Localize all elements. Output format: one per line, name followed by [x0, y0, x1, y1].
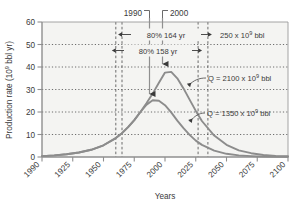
- series-label-2100-tail: bbl: [259, 74, 272, 83]
- series-label-2100-main: Q = 2100 x 10: [208, 74, 256, 83]
- callout-1990-label: 1990: [124, 9, 143, 18]
- span-164yr: 80% 164 yr: [122, 29, 208, 41]
- y-axis-title-tail: bbl yr): [5, 41, 14, 66]
- y-axis-title-main: Production rate (10: [5, 69, 14, 139]
- span-158yr: 80% 158 yr: [116, 45, 198, 57]
- series-label-1350-main: Q = 1350 x 10: [207, 109, 255, 118]
- production-rate-chart: 0 10 20 30 40 50 60 Production rate (109…: [0, 0, 305, 206]
- y-tick-40: 40: [26, 63, 36, 72]
- svg-text:Q = 1350 x 109 bbl: Q = 1350 x 109 bbl: [207, 108, 271, 118]
- series-label-1350-tail: bbl: [258, 109, 271, 118]
- y-tick-30: 30: [26, 86, 36, 95]
- x-axis-title: Years: [155, 192, 176, 201]
- callout-2000-label: 2000: [170, 9, 189, 18]
- y-axis-title: Production rate (109 bbl yr): [4, 41, 14, 139]
- chart-figure: 0 10 20 30 40 50 60 Production rate (109…: [0, 0, 305, 206]
- span-164yr-label: 80% 164 yr: [147, 31, 186, 40]
- y-tick-10: 10: [26, 131, 36, 140]
- svg-text:Production rate (109 bbl yr): Production rate (109 bbl yr): [4, 41, 14, 139]
- svg-text:Q = 2100 x 109 bbl: Q = 2100 x 109 bbl: [208, 73, 272, 83]
- y-tick-20: 20: [26, 108, 36, 117]
- y-tick-50: 50: [26, 41, 36, 50]
- reserve-note-main: 250 x 10: [220, 31, 249, 40]
- y-tick-60: 60: [26, 18, 36, 27]
- reserve-note: 250 x 109 bbl: [220, 30, 265, 40]
- reserve-note-tail: bbl: [252, 31, 265, 40]
- span-158yr-label: 80% 158 yr: [139, 47, 178, 56]
